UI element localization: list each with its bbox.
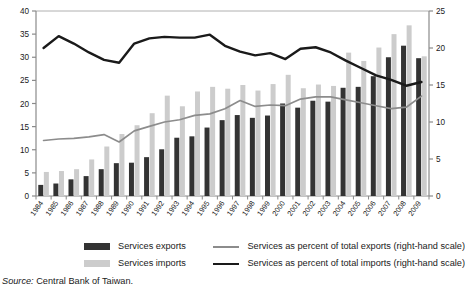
bar-services-exports bbox=[129, 163, 134, 196]
bar-services-exports bbox=[371, 76, 376, 196]
bar-services-imports bbox=[74, 169, 79, 196]
bar-services-exports bbox=[205, 128, 210, 196]
bar-services-exports bbox=[250, 118, 255, 196]
y-axis-left-tick-label: 20 bbox=[20, 100, 30, 109]
y-axis-right-tick-label: 15 bbox=[436, 81, 446, 90]
x-axis-year-label: 2006 bbox=[361, 199, 378, 218]
bar-services-imports bbox=[286, 75, 291, 196]
bar-services-imports bbox=[44, 172, 49, 196]
legend-services-pct-imports: Services as percent of total imports (ri… bbox=[213, 258, 465, 269]
x-axis-year-label: 2009 bbox=[406, 199, 423, 218]
legend-label-services-pct-exports: Services as percent of total exports (ri… bbox=[247, 241, 465, 252]
x-axis-year-label: 1987 bbox=[74, 199, 91, 218]
legend-swatch-services-imports bbox=[84, 260, 110, 267]
y-axis-right-tick-label: 0 bbox=[436, 192, 441, 201]
x-axis-year-label: 1994 bbox=[180, 199, 197, 218]
bar-services-exports bbox=[295, 108, 300, 196]
source-text: Central Bank of Taiwan. bbox=[36, 276, 133, 286]
bar-services-exports bbox=[99, 169, 104, 196]
bar-services-imports bbox=[361, 61, 366, 196]
services-trade-chart-figure: 0510152025303540051015202519841985198619… bbox=[0, 0, 465, 295]
legend-row-1: Services exports Services as percent of … bbox=[0, 238, 465, 255]
bar-services-imports bbox=[225, 89, 230, 196]
bar-services-exports bbox=[235, 115, 240, 196]
legend-services-imports: Services imports bbox=[84, 258, 213, 269]
y-axis-left-tick-label: 0 bbox=[24, 192, 29, 201]
y-axis-left-tick-label: 35 bbox=[20, 30, 30, 39]
x-axis-year-label: 2007 bbox=[376, 199, 393, 218]
bar-services-imports bbox=[210, 87, 215, 196]
source-note: Source: Central Bank of Taiwan. bbox=[2, 276, 133, 286]
bar-services-imports bbox=[104, 147, 109, 196]
legend-services-pct-exports: Services as percent of total exports (ri… bbox=[213, 241, 465, 252]
y-axis-right-tick-label: 5 bbox=[436, 155, 441, 164]
x-axis-year-label: 1985 bbox=[44, 199, 61, 218]
y-axis-left-tick-label: 30 bbox=[20, 53, 30, 62]
bar-services-imports bbox=[195, 91, 200, 196]
bar-services-imports bbox=[392, 34, 397, 196]
x-axis-year-label: 2004 bbox=[331, 199, 348, 218]
bar-services-exports bbox=[265, 116, 270, 196]
x-axis-year-label: 1992 bbox=[149, 199, 166, 218]
bar-services-imports bbox=[331, 86, 336, 196]
y-axis-left-tick-label: 15 bbox=[20, 123, 30, 132]
x-axis-year-label: 2001 bbox=[285, 199, 302, 218]
x-axis-year-label: 1988 bbox=[89, 199, 106, 218]
x-axis-year-label: 1999 bbox=[255, 199, 272, 218]
x-axis-year-label: 1986 bbox=[59, 199, 76, 218]
legend-label-services-imports: Services imports bbox=[118, 258, 186, 269]
x-axis-year-label: 1995 bbox=[195, 199, 212, 218]
bar-services-imports bbox=[271, 84, 276, 196]
y-axis-right-tick-label: 10 bbox=[436, 118, 446, 127]
legend-label-services-pct-imports: Services as percent of total imports (ri… bbox=[247, 258, 465, 269]
y-axis-left-tick-label: 10 bbox=[20, 146, 30, 155]
bar-services-exports bbox=[416, 58, 421, 196]
bar-services-exports bbox=[220, 120, 225, 196]
bar-services-exports bbox=[325, 102, 330, 196]
bar-services-imports bbox=[376, 48, 381, 196]
legend-swatch-services-pct-imports bbox=[213, 263, 239, 265]
x-axis-year-label: 2002 bbox=[300, 199, 317, 218]
legend-swatch-services-exports bbox=[84, 243, 110, 250]
bar-services-exports bbox=[114, 163, 119, 196]
bar-services-imports bbox=[407, 25, 412, 196]
x-axis-year-label: 1997 bbox=[225, 199, 242, 218]
bar-services-exports bbox=[159, 149, 164, 196]
x-axis-year-label: 1984 bbox=[28, 199, 45, 218]
x-axis-year-label: 2000 bbox=[270, 199, 287, 218]
bar-services-imports bbox=[89, 159, 94, 196]
y-axis-right-tick-label: 25 bbox=[436, 7, 446, 16]
y-axis-left-tick-label: 5 bbox=[24, 169, 29, 178]
x-axis-year-label: 2008 bbox=[391, 199, 408, 218]
bar-services-exports bbox=[174, 138, 179, 196]
y-axis-right-tick-label: 20 bbox=[436, 44, 446, 53]
x-axis-year-label: 1998 bbox=[240, 199, 257, 218]
bar-services-imports bbox=[422, 56, 427, 196]
x-axis-year-label: 1993 bbox=[164, 199, 181, 218]
legend-label-services-exports: Services exports bbox=[118, 241, 186, 252]
x-axis-year-label: 1996 bbox=[210, 199, 227, 218]
source-prefix: Source: bbox=[2, 276, 34, 286]
bar-services-exports bbox=[401, 46, 406, 196]
y-axis-left-tick-label: 40 bbox=[20, 7, 30, 16]
bar-services-imports bbox=[301, 88, 306, 196]
bar-services-imports bbox=[59, 171, 64, 196]
chart-legend: Services exports Services as percent of … bbox=[0, 238, 465, 274]
bar-services-exports bbox=[38, 185, 43, 196]
x-axis-year-label: 2003 bbox=[316, 199, 333, 218]
bar-services-imports bbox=[119, 134, 124, 196]
bar-services-imports bbox=[316, 85, 321, 196]
y-axis-left-tick-label: 25 bbox=[20, 76, 30, 85]
bar-services-exports bbox=[53, 184, 58, 196]
bar-services-imports bbox=[135, 125, 140, 196]
x-axis-year-label: 2005 bbox=[346, 199, 363, 218]
bar-services-imports bbox=[346, 53, 351, 196]
bar-services-exports bbox=[280, 104, 285, 197]
bar-services-exports bbox=[310, 101, 315, 196]
bar-services-exports bbox=[189, 136, 194, 196]
legend-services-exports: Services exports bbox=[84, 241, 213, 252]
bar-services-exports bbox=[84, 176, 89, 196]
x-axis-year-label: 1989 bbox=[104, 199, 121, 218]
bar-services-exports bbox=[341, 88, 346, 196]
legend-swatch-services-pct-exports bbox=[213, 246, 239, 248]
